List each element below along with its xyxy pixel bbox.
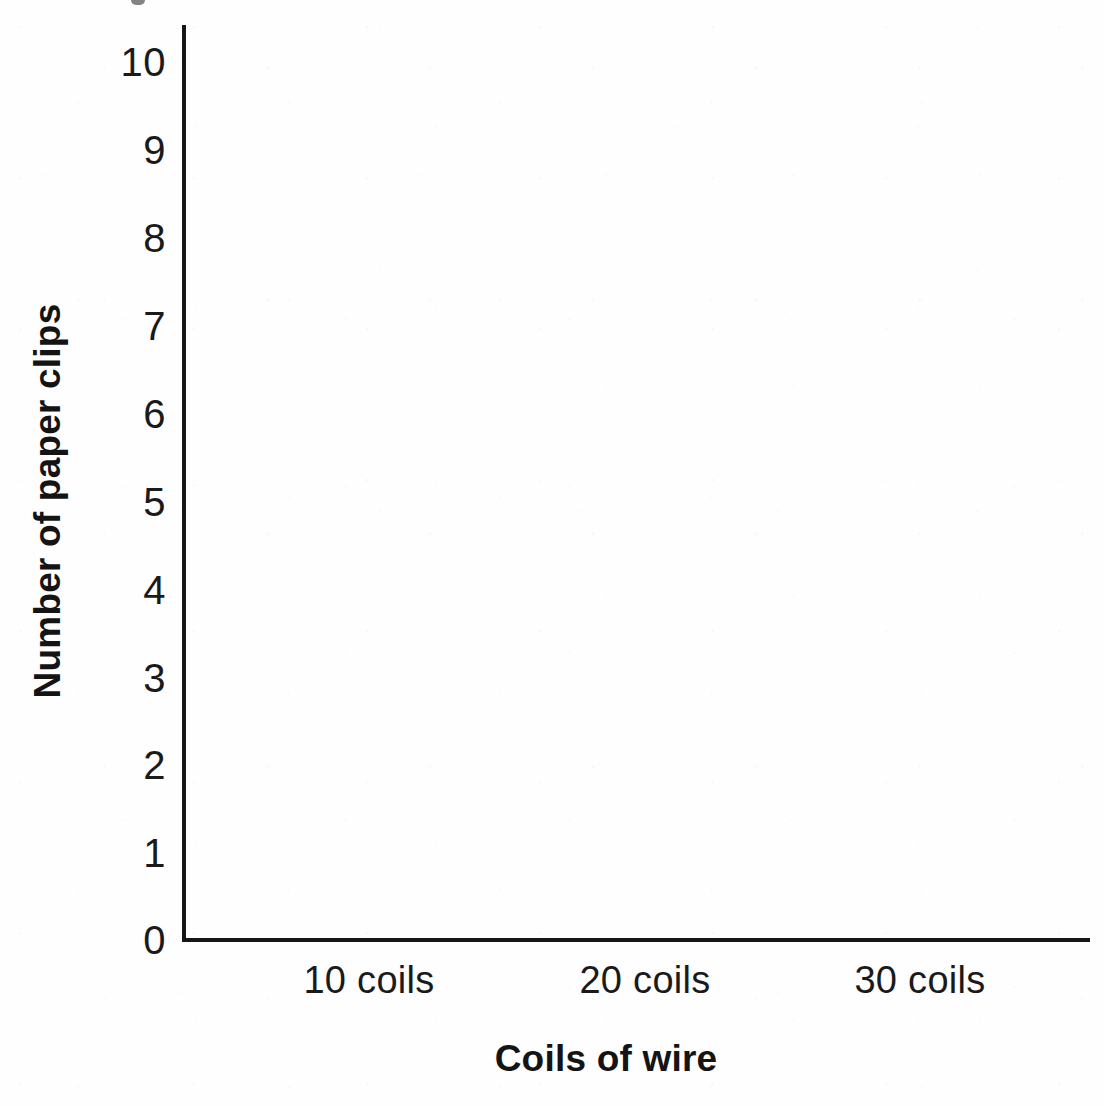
y-axis-line bbox=[182, 25, 186, 942]
y-tick-label-0: 0 bbox=[102, 920, 166, 960]
x-axis-title: Coils of wire bbox=[0, 1038, 1104, 1080]
x-axis-line bbox=[182, 938, 1090, 942]
y-axis-title: Number of paper clips bbox=[27, 101, 69, 901]
y-tick-label-2: 2 bbox=[102, 745, 166, 785]
chart-page: 10 9 8 7 6 5 4 3 2 1 0 Number of paper c… bbox=[0, 0, 1104, 1106]
y-tick-label-10: 10 bbox=[102, 42, 166, 82]
y-tick-label-5: 5 bbox=[102, 482, 166, 522]
y-tick-label-8: 8 bbox=[102, 218, 166, 258]
y-tick-label-9: 9 bbox=[102, 130, 166, 170]
y-tick-label-4: 4 bbox=[102, 570, 166, 610]
y-tick-label-1: 1 bbox=[102, 833, 166, 873]
x-tick-label-30-coils: 30 coils bbox=[800, 958, 1040, 1002]
y-tick-label-6: 6 bbox=[102, 394, 166, 434]
x-tick-label-10-coils: 10 coils bbox=[249, 958, 489, 1002]
x-tick-label-20-coils: 20 coils bbox=[525, 958, 765, 1002]
y-axis-tick-labels: 10 9 8 7 6 5 4 3 2 1 0 bbox=[100, 0, 166, 1106]
y-tick-label-7: 7 bbox=[102, 306, 166, 346]
y-tick-label-3: 3 bbox=[102, 658, 166, 698]
